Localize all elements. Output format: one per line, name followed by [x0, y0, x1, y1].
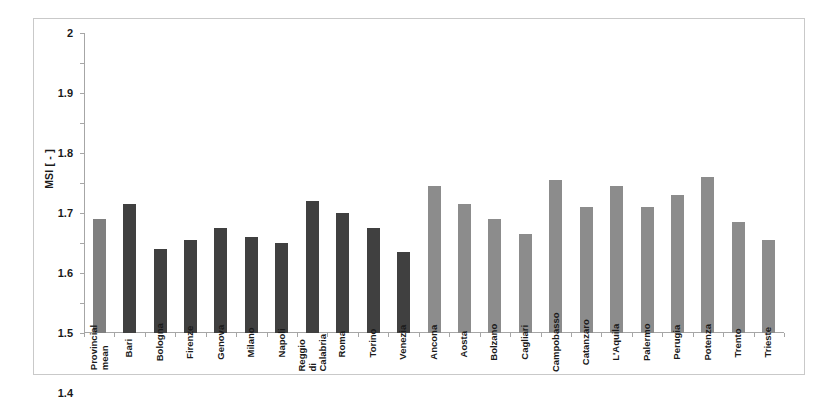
bar	[488, 219, 501, 333]
y-tick-mark: 1.1	[80, 303, 84, 304]
y-tick-label: 1.9	[58, 87, 73, 99]
x-tick-label: Cagliari	[510, 337, 540, 403]
y-axis-title-label: MSI [ - ]	[43, 149, 55, 189]
y-tick-mark: 1.5	[80, 183, 84, 184]
bar	[306, 201, 319, 333]
bar	[93, 219, 106, 333]
x-tick-label: Trento	[723, 337, 753, 403]
x-tick-label: Ancona	[419, 337, 449, 403]
x-tick-label-text: Bolzano	[490, 324, 501, 361]
y-axis-line	[84, 33, 85, 333]
x-tick-label: Aosta	[449, 337, 479, 403]
y-tick-mark: 1.2	[80, 273, 84, 274]
x-tick-label-text: Campobasso	[550, 312, 561, 372]
bar	[610, 186, 623, 333]
x-tick-label: L'Aquila	[601, 337, 631, 403]
bar	[458, 204, 471, 333]
x-tick-label: Campobasso	[541, 337, 571, 403]
x-tick-label: Napoli	[267, 337, 297, 403]
x-tick-label: Bologna	[145, 337, 175, 403]
bar	[275, 243, 288, 333]
x-tick-label: Trieste	[754, 337, 784, 403]
y-tick-mark: 1.7	[80, 123, 84, 124]
x-tick-label-text: Potenza	[703, 324, 714, 360]
x-tick-mark	[784, 333, 785, 337]
x-tick-label: Firenze	[175, 337, 205, 403]
bar	[428, 186, 441, 333]
plot-area: 21.91.81.71.61.51.41.31.21.11	[84, 33, 784, 333]
bar	[367, 228, 380, 333]
x-tick-label-text: Aosta	[459, 327, 470, 357]
x-tick-label-text: Napoli	[277, 327, 288, 357]
bar	[701, 177, 714, 333]
y-tick-label: 1.6	[58, 267, 73, 279]
x-tick-label: Perugia	[662, 337, 692, 403]
x-tick-label-text: L'Aquila	[611, 324, 622, 361]
x-tick-label-text: Genova	[216, 325, 227, 360]
x-tick-label-text: Bologna	[155, 323, 166, 361]
y-tick-mark: 2	[80, 33, 84, 34]
x-tick-label: Potenza	[693, 337, 723, 403]
x-tick-label: Bolzano	[480, 337, 510, 403]
x-tick-label: Milano	[236, 337, 266, 403]
chart-figure: MSI [ - ] 21.91.81.71.61.51.41.31.21.11 …	[33, 18, 805, 375]
x-tick-label: Roma	[327, 337, 357, 403]
bar	[762, 240, 775, 333]
x-tick-label-text: Venezia	[398, 325, 409, 360]
y-tick-mark: 1.8	[80, 93, 84, 94]
bar	[671, 195, 684, 333]
x-tick-label-text: Trento	[733, 327, 744, 357]
x-tick-label-text: Bari	[124, 327, 135, 357]
x-tick-label-text: Catanzaro	[581, 319, 592, 365]
x-tick-label-text: Reggio di Calabria	[296, 334, 328, 371]
x-tick-label: Provincial mean	[84, 337, 114, 403]
x-tick-label: Catanzaro	[571, 337, 601, 403]
x-tick-label-text: Provincial mean	[89, 325, 110, 370]
x-tick-label-text: Torino	[368, 327, 379, 357]
y-tick-label: 2	[67, 27, 73, 39]
y-tick-mark: 1.9	[80, 63, 84, 64]
x-tick-label-text: Roma	[337, 327, 348, 357]
x-tick-label-text: Trieste	[764, 327, 775, 358]
bar	[732, 222, 745, 333]
bar	[519, 234, 532, 333]
bar	[184, 240, 197, 333]
y-tick-label: 1.8	[58, 147, 73, 159]
x-tick-label: Torino	[358, 337, 388, 403]
x-tick-label-text: Firenze	[185, 326, 196, 359]
y-tick-label: 1.4	[58, 387, 73, 399]
y-axis-title: MSI [ - ]	[40, 19, 58, 319]
y-tick-label: 1.5	[58, 327, 73, 339]
bar	[641, 207, 654, 333]
x-tick-label: Palermo	[632, 337, 662, 403]
x-tick-label: Bari	[114, 337, 144, 403]
bar	[397, 252, 410, 333]
y-tick-mark: 1.6	[80, 153, 84, 154]
bar	[549, 180, 562, 333]
bar	[123, 204, 136, 333]
y-tick-label: 1.7	[58, 207, 73, 219]
bar	[214, 228, 227, 333]
bar	[580, 207, 593, 333]
bar	[336, 213, 349, 333]
x-tick-label: Reggio di Calabria	[297, 337, 327, 403]
x-tick-label-text: Perugia	[672, 325, 683, 360]
x-tick-label: Venezia	[388, 337, 418, 403]
y-tick-mark: 1.4	[80, 213, 84, 214]
bar	[154, 249, 167, 333]
x-axis-labels: Provincial meanBariBolognaFirenzeGenovaM…	[84, 337, 784, 407]
x-tick-label: Genova	[206, 337, 236, 403]
x-tick-label-text: Ancona	[429, 325, 440, 360]
y-tick-mark: 1.3	[80, 243, 84, 244]
x-tick-label-text: Palermo	[642, 324, 653, 362]
x-tick-label-text: Milano	[246, 327, 257, 357]
bar	[245, 237, 258, 333]
x-tick-label-text: Cagliari	[520, 325, 531, 360]
